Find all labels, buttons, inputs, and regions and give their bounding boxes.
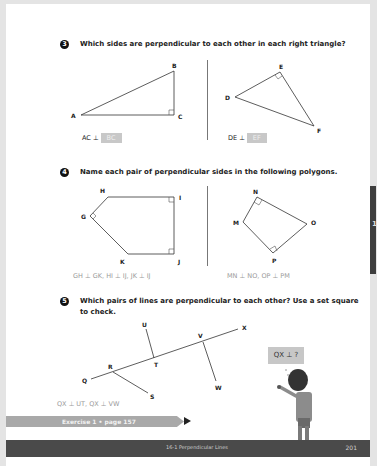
line-label-r: R <box>108 363 113 370</box>
line-label-x: X <box>242 324 247 331</box>
exercise-link[interactable]: Exercise 1 • page 157 <box>6 416 184 427</box>
chapter-side-tab <box>370 186 376 274</box>
page-footer: 16-1 Perpendicular Lines 201 <box>6 440 370 457</box>
speech-bubble: QX ⊥ ? <box>268 347 304 364</box>
play-arrow-icon[interactable] <box>184 417 191 425</box>
side-tab-mark: 1 <box>372 220 377 228</box>
line-label-u: U <box>142 321 147 328</box>
line-label-w: W <box>215 384 222 391</box>
line-label-q: Q <box>82 377 87 384</box>
line-label-t: T <box>154 361 158 368</box>
page-number: 201 <box>346 444 357 451</box>
line-label-v: V <box>198 332 203 339</box>
footer-title: 16-1 Perpendicular Lines <box>166 444 228 450</box>
student-character <box>277 369 312 442</box>
line-label-s: S <box>150 393 154 400</box>
question-5-answer: QX ⊥ UT, QX ⊥ VW <box>57 400 119 408</box>
